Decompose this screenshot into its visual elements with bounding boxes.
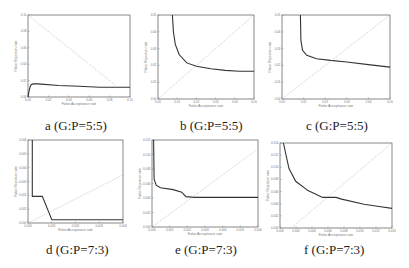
- y-tick-label: 0.000: [271, 226, 279, 230]
- chart-panel-f: 0.0000.0020.0040.0060.0080.0100.0120.014…: [0, 0, 409, 268]
- plot-frame: [280, 143, 392, 228]
- x-tick-label: 0.004: [308, 229, 316, 233]
- eer-diagonal-line: [291, 143, 392, 228]
- x-axis-label: False Acceptance rate: [319, 233, 354, 237]
- y-tick-label: 0.014: [271, 141, 279, 145]
- y-tick-label: 0.008: [271, 177, 279, 181]
- y-tick-label: 0.010: [271, 165, 279, 169]
- y-tick-label: 0.012: [271, 153, 279, 157]
- x-tick-label: 0.010: [356, 229, 364, 233]
- x-tick-label: 0.012: [372, 229, 380, 233]
- y-tick-label: 0.006: [271, 190, 279, 194]
- x-tick-label: 0.002: [292, 229, 300, 233]
- plot-f: 0.0000.0020.0040.0060.0080.0100.0120.014…: [0, 0, 409, 268]
- y-axis-label: False Rejection rate: [266, 170, 270, 201]
- y-tick-label: 0.004: [271, 202, 279, 206]
- panel-caption: f (G:P=7:3): [304, 242, 364, 258]
- y-tick-label: 0.002: [271, 214, 279, 218]
- det-curve: [283, 143, 392, 208]
- x-tick-label: 0.014: [388, 229, 396, 233]
